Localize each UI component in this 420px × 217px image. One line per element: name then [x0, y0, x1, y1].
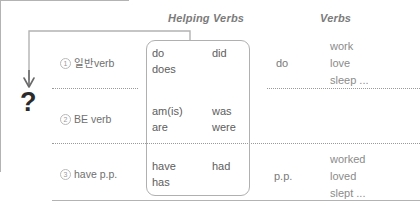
row-label-text-2: BE verb [74, 113, 111, 125]
row-divider-1-middle [0, 0, 129, 1]
vertical-rule-right [0, 114, 1, 172]
verb-item: love [330, 55, 369, 72]
row-number-3: 3 [60, 169, 71, 180]
row-label-3: 3have p.p. [60, 168, 117, 180]
row-divider-1-left [52, 88, 138, 89]
row-label-text-3: have p.p. [74, 168, 117, 180]
row-number-1: 1 [60, 58, 71, 69]
verb-item: work [330, 38, 369, 55]
helping-verb-do: do [152, 47, 164, 59]
row-label-text-1: 일반verb [74, 57, 114, 69]
header-verbs: Verbs [320, 12, 351, 24]
helping-verb-have: have [152, 160, 176, 172]
helping-verb-had: had [212, 160, 230, 172]
verb-list-row-3: worked loved slept ... [330, 151, 365, 202]
row-label-1: 1일반verb [60, 55, 114, 70]
helping-verb-was: was [212, 105, 232, 117]
verb-list-row-1: work love sleep ... [330, 38, 369, 89]
row-number-2: 2 [60, 114, 71, 125]
row-label-2: 2BE verb [60, 113, 111, 125]
diagram-canvas: Helping Verbs Verbs ? 1일반verb 2BE verb 3… [0, 0, 420, 217]
helping-verb-amis: am(is) [152, 105, 183, 117]
helping-verb-are: are [152, 121, 168, 133]
helping-verb-has: has [152, 176, 170, 188]
vertical-rule-left [0, 1, 1, 114]
middle-form-row-1: do [276, 57, 288, 69]
verb-item: worked [330, 151, 365, 168]
helping-verb-did: did [212, 47, 227, 59]
question-mark-annotation: ? [20, 89, 37, 116]
verb-item: sleep ... [330, 72, 369, 89]
helping-verb-does: does [152, 63, 176, 75]
verb-item: loved [330, 168, 365, 185]
middle-form-row-3: p.p. [274, 170, 292, 182]
header-helping-verbs: Helping Verbs [168, 12, 244, 24]
helping-verb-were: were [212, 121, 236, 133]
verb-item: slept ... [330, 185, 365, 202]
